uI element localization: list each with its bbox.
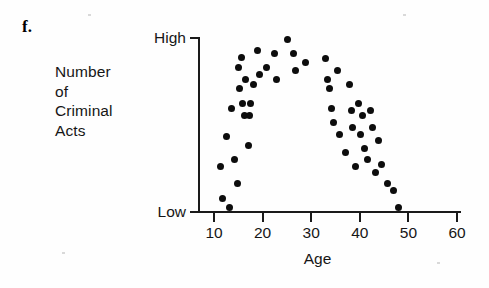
- scatter-point: [226, 204, 233, 211]
- x-tick-10: [213, 213, 215, 222]
- scatter-point: [372, 169, 379, 176]
- scatter-point: [384, 180, 391, 187]
- x-tick-40: [359, 213, 361, 222]
- y-tick-low: [190, 211, 199, 213]
- y-axis-title-line-3: Criminal: [55, 101, 145, 121]
- scatter-point: [245, 142, 252, 149]
- x-tick-60: [456, 213, 458, 222]
- scatter-point: [336, 131, 343, 138]
- x-tick-20: [262, 213, 264, 222]
- scatter-point: [349, 124, 356, 131]
- x-tick-30: [310, 213, 312, 222]
- scatter-point: [326, 85, 333, 92]
- scatter-point: [236, 85, 243, 92]
- scatter-point: [367, 107, 374, 114]
- y-tick-high: [190, 37, 199, 39]
- scatter-point: [334, 67, 341, 74]
- scatter-point: [219, 195, 226, 202]
- scatter-point: [273, 76, 280, 83]
- scatter-point: [247, 100, 254, 107]
- scatter-point: [322, 55, 329, 62]
- y-axis-title-line-4: Acts: [55, 121, 145, 141]
- scatter-point: [250, 81, 257, 88]
- scatter-point: [292, 67, 299, 74]
- scatter-plot-figure: f. Number of Criminal Acts High Low 1020…: [0, 0, 489, 288]
- x-axis-title: Age: [278, 250, 358, 268]
- scatter-point: [302, 59, 309, 66]
- scatter-point: [234, 180, 241, 187]
- scatter-point: [235, 64, 242, 71]
- scatter-point: [271, 50, 278, 57]
- scatter-point: [223, 133, 230, 140]
- scatter-point: [246, 112, 253, 119]
- scatter-point: [290, 50, 297, 57]
- scatter-point: [239, 100, 246, 107]
- scatter-point: [348, 107, 355, 114]
- scatter-point: [284, 36, 291, 43]
- scan-speckle: [62, 252, 65, 254]
- x-tick-label-10: 10: [194, 224, 234, 242]
- scatter-point: [328, 105, 335, 112]
- y-axis-title-line-1: Number: [55, 62, 145, 82]
- x-tick-label-40: 40: [340, 224, 380, 242]
- scatter-point: [324, 76, 331, 83]
- x-tick-label-50: 50: [388, 224, 428, 242]
- y-tick-label-low: Low: [126, 203, 186, 221]
- scan-speckle: [437, 262, 440, 264]
- scatter-point: [242, 76, 249, 83]
- x-tick-50: [407, 213, 409, 222]
- scatter-point: [263, 64, 270, 71]
- scatter-point: [256, 71, 263, 78]
- scatter-point: [357, 131, 364, 138]
- scatter-point: [254, 47, 261, 54]
- panel-label: f.: [22, 18, 32, 35]
- scatter-point: [364, 156, 371, 163]
- y-tick-label-high: High: [126, 29, 186, 47]
- scan-speckle: [403, 14, 406, 16]
- y-axis-line: [198, 37, 200, 213]
- scatter-point: [342, 149, 349, 156]
- scatter-point: [355, 100, 362, 107]
- y-axis-title: Number of Criminal Acts: [55, 62, 145, 140]
- scatter-point: [361, 145, 368, 152]
- scatter-point: [231, 156, 238, 163]
- scatter-point: [395, 204, 402, 211]
- scatter-point: [369, 124, 376, 131]
- x-tick-label-60: 60: [437, 224, 477, 242]
- scatter-point: [330, 119, 337, 126]
- x-tick-label-20: 20: [243, 224, 283, 242]
- scatter-point: [228, 105, 235, 112]
- x-tick-label-30: 30: [291, 224, 331, 242]
- scatter-point: [238, 54, 245, 61]
- x-axis-line: [190, 211, 461, 213]
- scatter-point: [352, 163, 359, 170]
- y-axis-title-line-2: of: [55, 82, 145, 102]
- scatter-point: [359, 112, 366, 119]
- scatter-point: [346, 81, 353, 88]
- scan-speckle: [88, 14, 91, 16]
- scatter-point: [375, 137, 382, 144]
- scatter-point: [378, 161, 385, 168]
- scatter-point: [390, 187, 397, 194]
- scatter-point: [217, 163, 224, 170]
